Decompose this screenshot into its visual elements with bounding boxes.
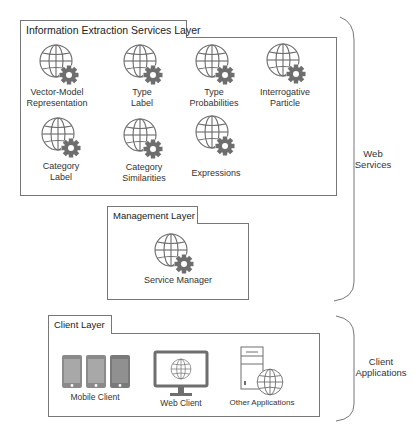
- client-label-mobile: Mobile Client: [70, 392, 119, 403]
- type-probabilities-icon: [196, 45, 235, 85]
- service-label-vector-model: Vector-Model Representation: [26, 87, 87, 109]
- expressions-icon: [196, 116, 235, 156]
- category-similarities-icon: [124, 119, 163, 159]
- service-label-category-similarities: Category Similarities: [122, 162, 166, 184]
- web-services-brace: [334, 17, 354, 301]
- interrogative-particle-icon: [267, 44, 306, 84]
- monitor-globe-icon: [155, 352, 207, 396]
- client-applications-label: Client Applications: [355, 356, 406, 378]
- service-manager-icon: [155, 234, 194, 274]
- web-services-label: Web Services: [355, 148, 391, 170]
- client-label-web: Web Client: [160, 398, 201, 409]
- vector-model-icon: [40, 45, 79, 85]
- client-applications-brace: [336, 316, 354, 421]
- mobile-devices-icon: [62, 355, 130, 388]
- service-label-interrogative-particle: Interrogative Particle: [260, 87, 310, 109]
- type-label-icon: [124, 45, 163, 85]
- client-label-other-apps: Other Applications: [230, 397, 295, 408]
- server-globe-icon: [241, 347, 283, 395]
- service-label-service-manager: Service Manager: [144, 275, 212, 286]
- service-label-type-label: Type Label: [131, 87, 153, 109]
- service-label-type-probabilities: Type Probabilities: [189, 87, 238, 109]
- service-label-category-label: Category Label: [43, 161, 80, 183]
- category-label-icon: [42, 118, 81, 158]
- service-label-expressions: Expressions: [191, 168, 240, 179]
